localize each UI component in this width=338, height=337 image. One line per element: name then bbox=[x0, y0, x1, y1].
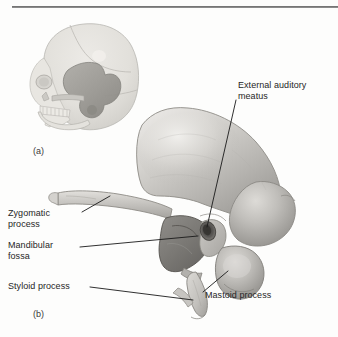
skull-parietal-eminence bbox=[92, 50, 106, 62]
panel-tag-b: (b) bbox=[33, 309, 44, 320]
skull-mastoid bbox=[87, 105, 97, 115]
label-mandibular-fossa: Mandibular fossa bbox=[8, 240, 53, 262]
mastoid-highlight bbox=[223, 254, 251, 278]
label-mastoid-process: Mastoid process bbox=[205, 290, 271, 301]
temporal-bone-panel-b bbox=[49, 108, 296, 319]
squamous-highlight bbox=[138, 112, 242, 192]
zygomatic-process-tip bbox=[49, 193, 58, 205]
panel-tag-a: (a) bbox=[33, 146, 44, 157]
skull-orbit-inner bbox=[39, 78, 49, 87]
label-external-auditory-meatus: External auditory meatus bbox=[238, 80, 306, 102]
label-zygomatic-process: Zygomatic process bbox=[8, 208, 50, 230]
label-styloid-process: Styloid process bbox=[8, 281, 70, 292]
top-divider-rule bbox=[12, 6, 338, 8]
skull-inset-panel-a bbox=[30, 24, 139, 130]
anatomy-figure: External auditory meatus Zygomatic proce… bbox=[0, 0, 338, 337]
